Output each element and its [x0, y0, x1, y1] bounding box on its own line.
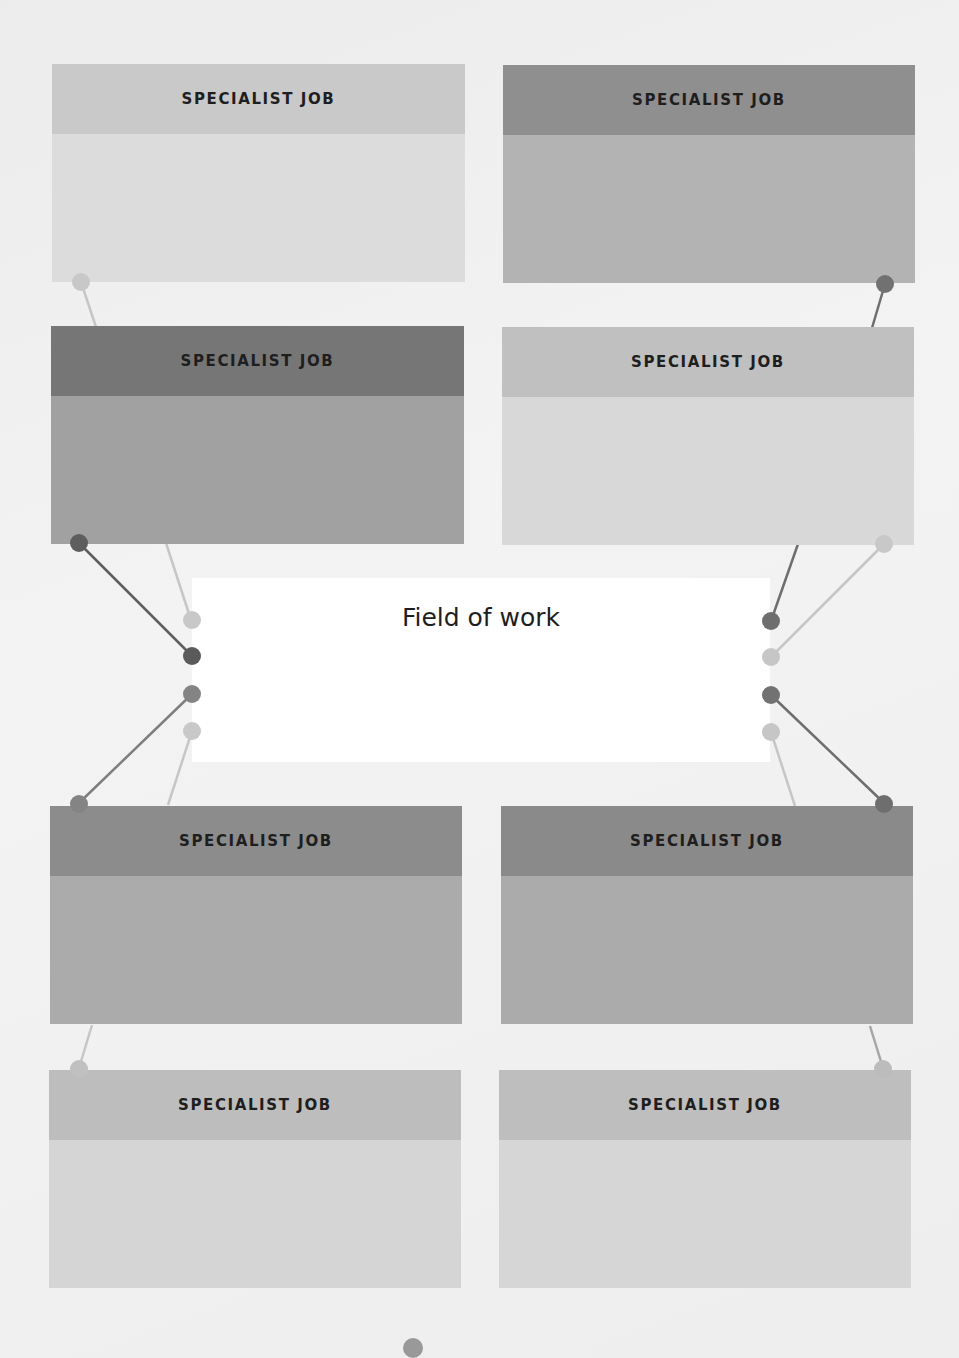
connector-dot-icon [762, 612, 780, 630]
card-body[interactable] [501, 876, 913, 1024]
specialist-job-card[interactable]: SPECIALIST JOB [499, 1070, 911, 1288]
specialist-job-card[interactable]: SPECIALIST JOB [52, 64, 465, 282]
specialist-job-card[interactable]: SPECIALIST JOB [501, 806, 913, 1024]
connector-dot-icon [183, 722, 201, 740]
card-label: SPECIALIST JOB [632, 91, 786, 109]
specialist-job-card[interactable]: SPECIALIST JOB [503, 65, 915, 283]
card-label: SPECIALIST JOB [630, 832, 784, 850]
card-body[interactable] [503, 135, 915, 283]
connector-dot-icon [875, 535, 893, 553]
connector-dot-icon [70, 534, 88, 552]
specialist-job-card[interactable]: SPECIALIST JOB [50, 806, 462, 1024]
card-header: SPECIALIST JOB [499, 1070, 911, 1140]
card-label: SPECIALIST JOB [182, 90, 336, 108]
connector-dot-icon [183, 647, 201, 665]
connector-dot-icon [762, 648, 780, 666]
page-marker-dot-icon [403, 1338, 423, 1358]
card-header: SPECIALIST JOB [52, 64, 465, 134]
card-header: SPECIALIST JOB [503, 65, 915, 135]
connector-dot-icon [762, 686, 780, 704]
card-label: SPECIALIST JOB [631, 353, 785, 371]
connector-dot-icon [762, 723, 780, 741]
field-of-work-title: Field of work [192, 603, 770, 632]
card-body[interactable] [51, 396, 464, 544]
card-label: SPECIALIST JOB [179, 832, 333, 850]
card-body[interactable] [50, 876, 462, 1024]
card-label: SPECIALIST JOB [181, 352, 335, 370]
card-body[interactable] [52, 134, 465, 282]
specialist-job-card[interactable]: SPECIALIST JOB [51, 326, 464, 544]
card-body[interactable] [49, 1140, 461, 1288]
field-of-work-box[interactable]: Field of work [192, 578, 770, 762]
specialist-job-card[interactable]: SPECIALIST JOB [502, 327, 914, 545]
card-label: SPECIALIST JOB [178, 1096, 332, 1114]
card-header: SPECIALIST JOB [51, 326, 464, 396]
specialist-job-card[interactable]: SPECIALIST JOB [49, 1070, 461, 1288]
connector-dot-icon [876, 275, 894, 293]
connector-dot-icon [183, 685, 201, 703]
card-header: SPECIALIST JOB [49, 1070, 461, 1140]
connector-dot-icon [875, 795, 893, 813]
connector-dot-icon [70, 1060, 88, 1078]
card-header: SPECIALIST JOB [50, 806, 462, 876]
connector-dot-icon [72, 273, 90, 291]
connector-dot-icon [874, 1060, 892, 1078]
connector-dot-icon [70, 795, 88, 813]
card-header: SPECIALIST JOB [502, 327, 914, 397]
card-body[interactable] [502, 397, 914, 545]
card-body[interactable] [499, 1140, 911, 1288]
card-header: SPECIALIST JOB [501, 806, 913, 876]
card-label: SPECIALIST JOB [628, 1096, 782, 1114]
connector-dot-icon [183, 611, 201, 629]
